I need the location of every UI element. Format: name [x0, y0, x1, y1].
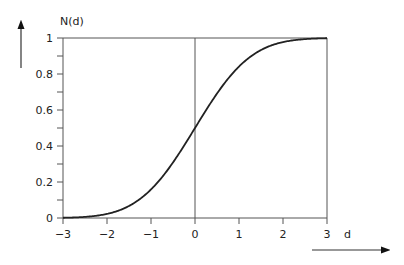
y-tick-label: 0.2 [36, 176, 54, 189]
y-axis-label: N(d) [60, 15, 84, 28]
x-tick-label: −2 [99, 228, 115, 241]
y-ticks: 00.20.40.60.81 [36, 32, 64, 225]
y-tick-label: 0.6 [36, 104, 54, 117]
x-ticks: −3−2−10123 [55, 218, 331, 241]
x-tick-label: −1 [143, 228, 159, 241]
y-tick-label: 0.4 [36, 140, 54, 153]
x-tick-label: −3 [55, 228, 71, 241]
y-tick-label: 0.8 [36, 68, 54, 81]
y-tick-label: 0 [46, 212, 53, 225]
x-axis-label: d [344, 228, 351, 241]
x-tick-label: 3 [324, 228, 331, 241]
x-tick-label: 0 [192, 228, 199, 241]
chart-canvas: 00.20.40.60.81 −3−2−10123 N(d) d [0, 0, 404, 265]
y-tick-label: 1 [46, 32, 53, 45]
x-tick-label: 1 [236, 228, 243, 241]
x-tick-label: 2 [280, 228, 287, 241]
